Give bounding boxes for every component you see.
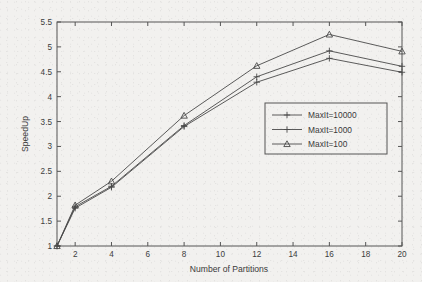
x-tick-label: 8	[182, 250, 187, 259]
speedup-line-chart: 2468101214161820 11.522.533.544.555.5 Nu…	[0, 0, 422, 282]
legend-label: MaxIt=1000	[308, 125, 352, 135]
y-tick-label: 2.5	[41, 167, 53, 176]
x-tick-label: 2	[73, 250, 78, 259]
chart-legend: MaxIt=10000MaxIt=1000MaxIt=100	[265, 103, 387, 154]
y-tick-label: 5	[47, 43, 52, 52]
x-tick-label: 10	[216, 250, 226, 259]
y-tick-label: 1	[47, 242, 52, 251]
x-axis-title: Number of Partitions	[190, 264, 268, 274]
x-tick-label: 4	[109, 250, 114, 259]
x-tick-label: 20	[397, 250, 407, 259]
x-tick-label: 18	[361, 250, 371, 259]
y-tick-label: 4.5	[41, 68, 53, 77]
x-tick-label: 14	[288, 250, 298, 259]
y-tick-label: 5.5	[41, 18, 53, 27]
x-tick-label: 6	[146, 250, 151, 259]
y-tick-label: 3	[47, 142, 52, 151]
legend-label: MaxIt=10000	[308, 110, 357, 120]
y-axis-title: SpeedUp	[20, 116, 30, 152]
x-tick-label: 16	[325, 250, 335, 259]
y-tick-label: 1.5	[41, 217, 53, 226]
y-tick-label: 4	[47, 93, 52, 102]
y-tick-label: 3.5	[41, 118, 53, 127]
y-tick-label: 2	[47, 192, 52, 201]
x-tick-label: 12	[252, 250, 262, 259]
figure-container: 2468101214161820 11.522.533.544.555.5 Nu…	[0, 0, 422, 282]
legend-label: MaxIt=100	[308, 139, 348, 149]
